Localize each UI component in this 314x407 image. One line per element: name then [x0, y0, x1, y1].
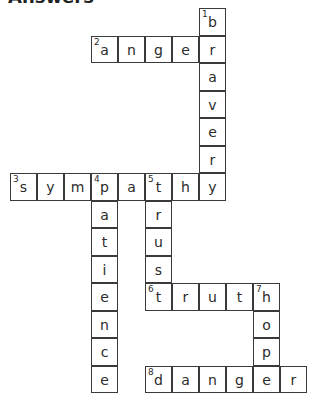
cell-letter: r — [200, 152, 225, 168]
crossword-cell: n — [199, 366, 226, 394]
crossword-cell: r — [280, 366, 307, 394]
cell-letter: r — [173, 289, 198, 305]
cell-letter: e — [92, 372, 117, 388]
cell-letter: m — [65, 179, 90, 195]
crossword-cell: a — [199, 63, 226, 91]
crossword-cell: n — [91, 311, 118, 339]
cell-letter: t — [146, 179, 171, 195]
crossword-cell: 3s — [10, 173, 37, 201]
cell-letter: n — [200, 372, 225, 388]
crossword-cell: e — [172, 36, 199, 64]
crossword-cell: 2a — [91, 36, 118, 64]
cell-letter: e — [200, 124, 225, 140]
cell-letter: y — [200, 179, 225, 195]
crossword-cell: p — [253, 338, 280, 366]
crossword-cell: c — [91, 338, 118, 366]
cell-letter: g — [146, 42, 171, 58]
cell-letter: d — [146, 372, 171, 388]
crossword-cell: u — [145, 228, 172, 256]
crossword-cell: t — [91, 228, 118, 256]
crossword-cell: a — [118, 173, 145, 201]
crossword-cell: 5t — [145, 173, 172, 201]
cell-letter: r — [200, 42, 225, 58]
cell-letter: u — [200, 289, 225, 305]
cell-letter: a — [200, 69, 225, 85]
crossword-cell: 7h — [253, 283, 280, 311]
cell-letter: a — [92, 42, 117, 58]
crossword-cell: e — [91, 283, 118, 311]
crossword-cell: 8d — [145, 366, 172, 394]
cell-letter: t — [92, 234, 117, 250]
cell-letter: b — [200, 14, 225, 30]
cell-letter: s — [11, 179, 36, 195]
crossword-cell: a — [172, 366, 199, 394]
crossword-cell: r — [145, 201, 172, 229]
crossword-cell: v — [199, 91, 226, 119]
cell-letter: a — [119, 179, 144, 195]
cell-letter: t — [146, 289, 171, 305]
cell-letter: h — [173, 179, 198, 195]
crossword-cell: s — [145, 256, 172, 284]
cell-letter: h — [254, 289, 279, 305]
crossword-cell: e — [199, 118, 226, 146]
cell-letter: a — [173, 372, 198, 388]
crossword-cell: g — [145, 36, 172, 64]
crossword-cell: 4p — [91, 173, 118, 201]
cell-letter: u — [146, 234, 171, 250]
crossword-cell: i — [91, 256, 118, 284]
cell-letter: a — [92, 207, 117, 223]
crossword-cell: 6t — [145, 283, 172, 311]
crossword-cell: g — [226, 366, 253, 394]
crossword-cell: n — [118, 36, 145, 64]
cell-letter: y — [38, 179, 63, 195]
crossword-grid: 1braver2ange3sym4pa5thyatiencerus6trut7h… — [0, 0, 314, 407]
cell-letter: s — [146, 262, 171, 278]
crossword-cell: y — [199, 173, 226, 201]
cell-letter: t — [227, 289, 252, 305]
cell-letter: e — [254, 372, 279, 388]
crossword-cell: r — [199, 36, 226, 64]
cell-letter: v — [200, 97, 225, 113]
crossword-cell: y — [37, 173, 64, 201]
crossword-cell: 1b — [199, 8, 226, 36]
crossword-cell: e — [253, 366, 280, 394]
cell-letter: c — [92, 344, 117, 360]
crossword-cell: t — [226, 283, 253, 311]
crossword-cell: a — [91, 201, 118, 229]
cell-letter: n — [92, 317, 117, 333]
cell-letter: e — [173, 42, 198, 58]
cell-letter: r — [146, 207, 171, 223]
cell-letter: o — [254, 317, 279, 333]
crossword-cell: o — [253, 311, 280, 339]
cell-letter: i — [92, 262, 117, 278]
crossword-cell: r — [199, 146, 226, 174]
crossword-cell: e — [91, 366, 118, 394]
crossword-cell: m — [64, 173, 91, 201]
cell-letter: r — [281, 372, 306, 388]
cell-letter: g — [227, 372, 252, 388]
cell-letter: n — [119, 42, 144, 58]
crossword-cell: h — [172, 173, 199, 201]
crossword-cell: u — [199, 283, 226, 311]
crossword-cell: r — [172, 283, 199, 311]
cell-letter: p — [254, 344, 279, 360]
cell-letter: e — [92, 289, 117, 305]
cell-letter: p — [92, 179, 117, 195]
